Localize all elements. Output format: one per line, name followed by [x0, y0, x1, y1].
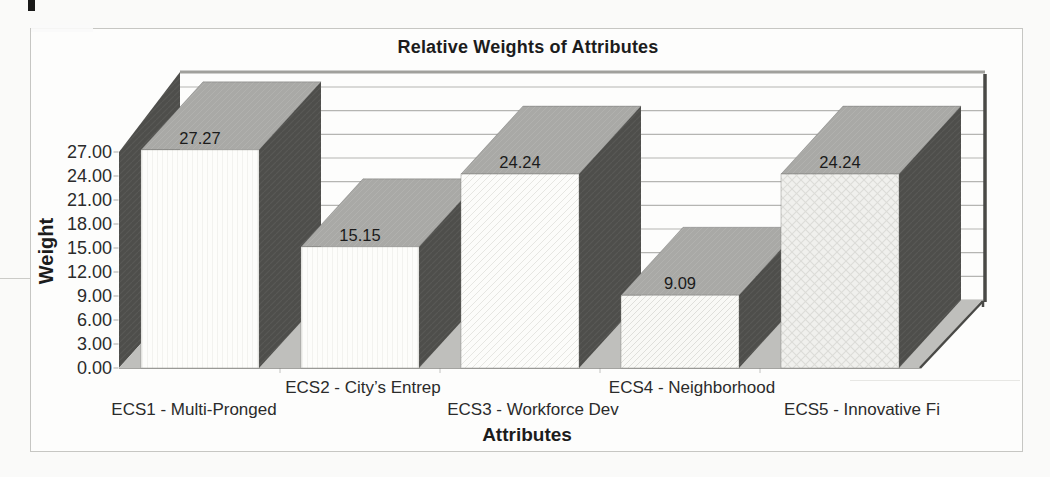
scan-artifact-border-fade	[31, 25, 93, 32]
y-tick-label: 0.00	[77, 358, 112, 378]
y-tick-label: 12.00	[67, 262, 112, 282]
x-axis-title: Attributes	[482, 424, 572, 445]
chart-title: Relative Weights of Attributes	[397, 37, 658, 57]
bar-front-ecs5	[781, 174, 899, 368]
y-tick-label: 9.00	[77, 286, 112, 306]
category-label-ecs3: ECS3 - Workforce Dev	[447, 400, 619, 419]
bar-front-ecs2	[301, 247, 419, 368]
scanned-page: 0.003.006.009.0012.0015.0018.0021.0024.0…	[0, 0, 1050, 477]
y-tick-label: 6.00	[77, 310, 112, 330]
y-tick-label: 18.00	[67, 214, 112, 234]
y-tick-label: 24.00	[67, 166, 112, 186]
bar-value-label-ecs4: 9.09	[664, 274, 696, 292]
bar-value-label-ecs2: 15.15	[339, 226, 380, 244]
category-label-ecs5: ECS5 - Innovative Fi	[784, 400, 940, 419]
bar-value-label-ecs5: 24.24	[819, 153, 860, 171]
category-label-ecs2: ECS2 - City’s Entrep	[285, 378, 441, 397]
bar-front-ecs3	[461, 174, 579, 368]
bar-value-label-ecs3: 24.24	[499, 153, 540, 171]
bar-front-ecs4	[621, 295, 739, 368]
y-tick-label: 21.00	[67, 190, 112, 210]
bar-value-label-ecs1: 27.27	[179, 129, 220, 147]
category-label-ecs4: ECS4 - Neighborhood	[609, 378, 775, 397]
y-tick-label: 15.00	[67, 238, 112, 258]
category-label-ecs1: ECS1 - Multi-Pronged	[111, 400, 276, 419]
scan-artifact-page-mark	[28, 0, 35, 11]
y-axis-title: Weight	[35, 218, 57, 285]
bar-front-ecs1	[141, 150, 259, 368]
plot-area: 0.003.006.009.0012.0015.0018.0021.0024.0…	[67, 72, 985, 419]
y-tick-label: 3.00	[77, 334, 112, 354]
y-tick-label: 27.00	[67, 142, 112, 162]
